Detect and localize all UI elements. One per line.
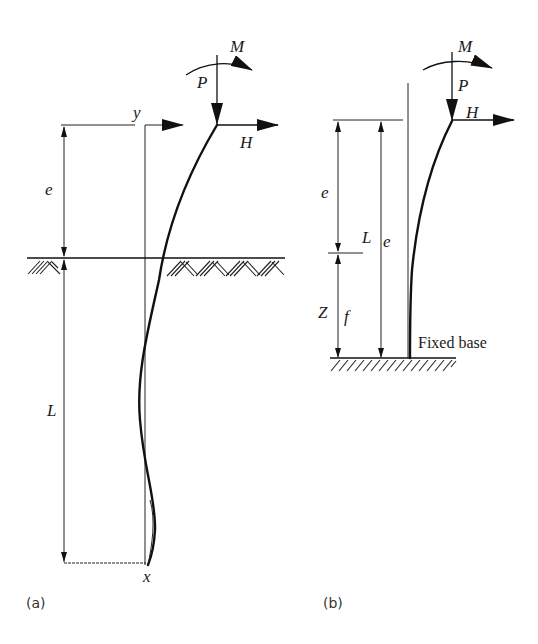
free-length-label-b: e [321,183,329,202]
fixity-depth-subscript: f [344,307,351,326]
dimension-zf [335,254,341,358]
fixed-base-hatching [331,360,456,371]
total-length-label: L [361,228,371,247]
caption-b: (b) [323,595,343,611]
y-axis-label: y [131,103,141,122]
dimension-e [61,126,67,257]
dimension-L [61,259,67,562]
caption-a: (a) [26,595,46,611]
free-length-label: e [45,180,53,199]
axial-load-label-a: P [196,73,207,92]
deflected-pile-b [410,121,452,358]
soil-hatching-right [167,261,284,276]
lateral-load-label-b: H [465,103,480,122]
fixed-base-label: Fixed base [418,334,487,351]
x-axis-label: x [142,567,151,586]
axial-load-label-b: P [457,76,468,95]
moment-arrow-b [423,61,492,70]
pile-diagram: y x e L [0,0,538,644]
moment-arrow-a [186,64,252,75]
total-length-subscript: e [383,232,391,251]
moment-label-b: M [457,37,473,56]
panel-b: e Z f L e [318,37,514,611]
embedded-length-label: L [46,401,56,420]
fixity-depth-label: Z [318,303,328,322]
deflected-pile-a [139,125,217,565]
soil-hatching-left [28,261,60,274]
dimension-e-b [335,121,341,252]
moment-label-a: M [229,37,245,56]
panel-a: y x e L [26,37,285,611]
lateral-load-label-a: H [239,133,254,152]
